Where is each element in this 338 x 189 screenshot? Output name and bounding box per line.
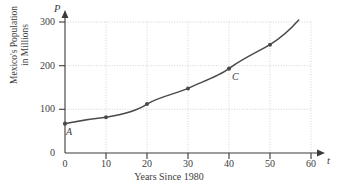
x-tick-label-0: 0: [52, 158, 78, 169]
x-tick-label-40: 40: [216, 158, 242, 169]
population-growth-chart: Mexico's Population in Millions: [0, 0, 338, 189]
x-tick-label-30: 30: [175, 158, 201, 169]
y-axis-arrow-icon: [62, 10, 69, 18]
point-label-c: C: [232, 71, 239, 82]
y-tick-label-200: 200: [29, 60, 55, 71]
data-point-t40: [227, 67, 231, 71]
point-label-a: A: [66, 126, 72, 137]
y-axis-ticks: [59, 22, 65, 109]
x-tick-label-50: 50: [257, 158, 283, 169]
y-axis-variable-label: P: [54, 3, 60, 14]
x-tick-label-20: 20: [134, 158, 160, 169]
x-axis-arrow-icon: [317, 150, 325, 157]
x-axis-variable-label: t: [327, 155, 330, 166]
y-tick-label-300: 300: [29, 16, 55, 27]
y-tick-label-0: 0: [29, 147, 55, 158]
data-point-t50: [268, 43, 272, 47]
data-point-t20: [145, 102, 149, 106]
data-point-t30: [186, 86, 190, 90]
population-curve: [65, 20, 299, 124]
y-tick-label-100: 100: [29, 103, 55, 114]
x-tick-label-60: 60: [298, 158, 324, 169]
x-axis-title: Years Since 1980: [0, 171, 338, 182]
data-point-markers: [63, 43, 272, 126]
x-tick-label-10: 10: [93, 158, 119, 169]
data-point-t10: [104, 115, 108, 119]
plot-area: [0, 0, 338, 189]
